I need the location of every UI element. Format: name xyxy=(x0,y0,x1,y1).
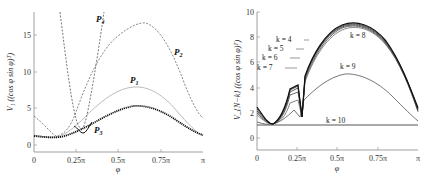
left-y-ticks: 0 5 10 15 xyxy=(23,31,37,150)
label-k5: k = 5 xyxy=(268,44,284,53)
left-xtick-pi: π xyxy=(201,156,205,165)
right-xtick-075: 0.75π xyxy=(369,154,387,163)
figure: 0 5 10 15 0 0.25π 0.5π 0.75π π φ V₁ ((co… xyxy=(0,0,433,179)
label-k8: k = 8 xyxy=(350,31,366,40)
label-p2: P2 xyxy=(174,47,183,58)
right-ytick-2: 2 xyxy=(250,109,254,118)
left-xtick-075: 0.75π xyxy=(152,156,170,165)
left-xtick-025: 0.25π xyxy=(67,156,85,165)
left-ytick-15: 15 xyxy=(23,31,31,40)
left-xtick-05: 0.5π xyxy=(111,156,125,165)
label-p1: P1 xyxy=(130,75,139,86)
left-chart: 0 5 10 15 0 0.25π 0.5π 0.75π π φ V₁ ((co… xyxy=(6,12,205,174)
right-chart: 0 2 4 6 8 10 0 0.25π 0.5π 0.75π π φ V_{N… xyxy=(233,8,420,173)
right-ytick-0: 0 xyxy=(250,134,254,143)
right-xtick-05: 0.5π xyxy=(330,154,344,163)
label-k10: k = 10 xyxy=(326,116,345,125)
left-xtick-0: 0 xyxy=(32,156,36,165)
right-xtick-0: 0 xyxy=(255,154,259,163)
label-p3: P3 xyxy=(94,125,103,136)
series-p1 xyxy=(34,87,203,137)
right-y-label: V_{N−k} ((cos φ sin φ)ᵀ) xyxy=(233,40,242,121)
right-ytick-4: 4 xyxy=(250,84,254,93)
right-ytick-8: 8 xyxy=(250,33,254,42)
right-ytick-10: 10 xyxy=(246,8,254,17)
left-x-ticks: 0 0.25π 0.5π 0.75π π xyxy=(32,149,205,165)
label-k4: k = 4 xyxy=(276,35,292,44)
left-ytick-0: 0 xyxy=(27,141,31,150)
right-xtick-025: 0.25π xyxy=(288,154,306,163)
series-p2 xyxy=(34,23,203,136)
left-y-label: V₁ ((cos φ sin φ)ᵀ) xyxy=(6,53,15,112)
left-x-label: φ xyxy=(116,165,121,174)
right-ytick-6: 6 xyxy=(250,58,254,67)
right-x-ticks: 0 0.25π 0.5π 0.75π π xyxy=(255,147,420,163)
right-x-label: φ xyxy=(335,164,340,173)
label-k9: k = 9 xyxy=(340,62,356,71)
label-k7: k = 7 xyxy=(257,63,273,72)
right-y-ticks: 0 2 4 6 8 10 xyxy=(246,8,260,143)
right-xtick-pi: π xyxy=(416,154,420,163)
left-ytick-10: 10 xyxy=(23,68,31,77)
left-ytick-5: 5 xyxy=(27,104,31,113)
series-v1 xyxy=(34,106,203,138)
series-p4 xyxy=(60,12,104,129)
label-k6: k = 6 xyxy=(262,53,278,62)
